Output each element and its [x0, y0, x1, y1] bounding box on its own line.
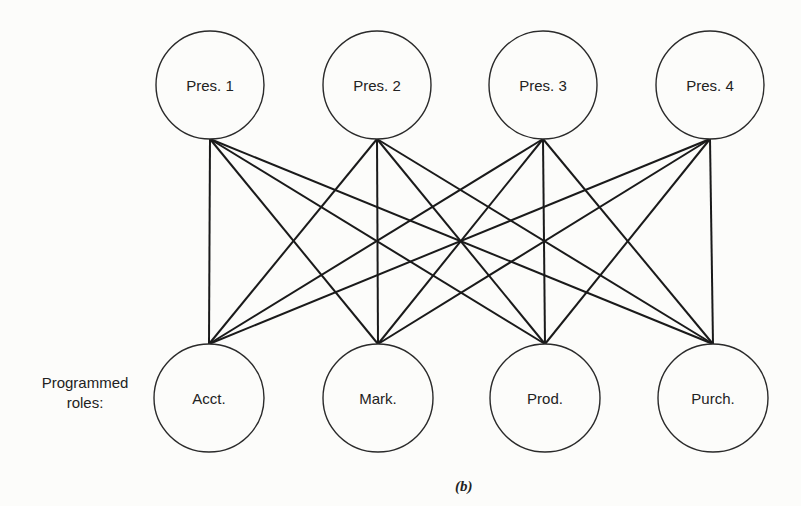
node-label-pres-1: Pres. 1	[186, 77, 234, 94]
node-label-purch: Purch.	[691, 390, 734, 407]
edge-pres1-acct	[209, 139, 210, 344]
node-label-acct: Acct.	[192, 390, 225, 407]
node-label-pres-3: Pres. 3	[519, 77, 567, 94]
figure-caption: (b)	[455, 478, 473, 495]
node-label-prod: Prod.	[527, 390, 563, 407]
node-label-pres-2: Pres. 2	[353, 77, 401, 94]
role-nodes	[154, 344, 768, 452]
president-nodes	[156, 31, 764, 139]
node-label-pres-4: Pres. 4	[686, 77, 734, 94]
programmed-roles-label: Programmed roles:	[30, 373, 140, 413]
side-label-line-2: roles:	[30, 393, 140, 413]
connection-lines	[209, 139, 713, 344]
edge-pres4-purch	[710, 139, 713, 344]
node-label-mark: Mark.	[359, 390, 397, 407]
side-label-line-1: Programmed	[30, 373, 140, 393]
